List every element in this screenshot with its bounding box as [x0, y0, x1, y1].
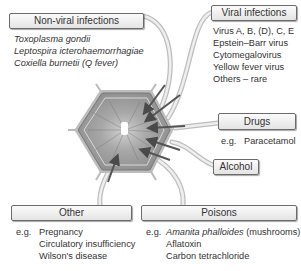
central-vein	[121, 122, 128, 135]
poisons-item: Carbon tetrachloride	[166, 250, 249, 262]
non-viral-infections-box: Non-viral infections	[9, 13, 144, 29]
non-viral-item: Toxoplasma gondii	[14, 33, 90, 45]
non-viral-item: Coxiella burnetii (Q fever)	[14, 57, 118, 69]
poisons-item: Amanita phalloides (mushrooms)	[166, 226, 300, 238]
drugs-prefix: e.g.	[221, 135, 236, 147]
other-item: Wilson's disease	[39, 250, 107, 262]
other-item: Circulatory insufficiency	[39, 238, 135, 250]
alcohol-box: Alcohol	[213, 159, 259, 175]
poisons-item: Aflatoxin	[166, 238, 201, 250]
non-viral-item: Leptospira icterohaemorrhagiae	[14, 45, 144, 57]
viral-item: Epstein–Barr virus	[213, 37, 288, 49]
viral-item: Yellow fever virus	[213, 61, 284, 73]
drugs-item: Paracetamol	[244, 135, 296, 147]
other-item: Pregnancy	[39, 226, 83, 238]
viral-item: Virus A, B, (D), C, E	[213, 25, 294, 37]
drugs-box: Drugs	[218, 113, 296, 130]
poisons-item-note: (mushrooms)	[246, 227, 300, 237]
viral-infections-box: Viral infections	[211, 5, 297, 21]
viral-item: Cytomegalovirus	[213, 49, 281, 61]
poisons-item-species: Amanita phalloides	[166, 227, 244, 237]
poisons-box: Poisons	[141, 205, 297, 221]
poisons-prefix: e.g.	[146, 226, 161, 238]
viral-item: Others – rare	[213, 73, 267, 85]
other-prefix: e.g.	[16, 226, 31, 238]
other-box: Other	[11, 205, 132, 221]
